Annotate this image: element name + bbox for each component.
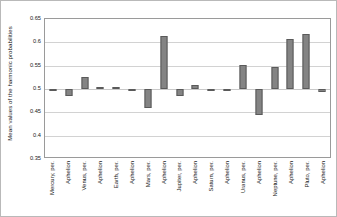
x-axis-tick-label: Neptune, per. [272, 161, 278, 196]
x-axis-tick-label: Earth, per. [113, 161, 119, 188]
bar-slot [92, 19, 108, 157]
x-axis-tick-label: Jupiter, per. [176, 161, 182, 191]
y-axis-tick: 0.65 [30, 15, 41, 21]
x-axis-tick-label: Aphelion [97, 161, 103, 184]
bar[interactable] [113, 87, 120, 89]
x-axis-tick: Aphelion [219, 159, 235, 217]
bar[interactable] [81, 77, 88, 89]
x-axis-tick: Uranus, per. [235, 159, 251, 217]
bar[interactable] [65, 89, 72, 96]
bar[interactable] [287, 39, 294, 89]
y-axis-tick: 0.6 [33, 38, 41, 44]
x-axis-tick-label: Pluto, per. [304, 161, 310, 188]
x-axis-tick: Neptune, per. [267, 159, 283, 217]
x-axis-tick: Pluto, per. [299, 159, 315, 217]
x-axis-tick: Earth, per. [108, 159, 124, 217]
x-axis-tick-label: Aphelion [320, 161, 326, 184]
bars-layer [45, 19, 330, 157]
x-axis-tick: Aphelion [187, 159, 203, 217]
bar-slot [298, 19, 314, 157]
x-axis-tick: Aphelion [156, 159, 172, 217]
bar-slot [219, 19, 235, 157]
x-axis-tick-label: Aphelion [256, 161, 262, 184]
x-axis-tick: Venus, per. [76, 159, 92, 217]
x-axis-tick-label: Aphelion [129, 161, 135, 184]
y-axis-title: Mean values of the harmonic probabilitie… [1, 1, 17, 166]
bar-slot [235, 19, 251, 157]
y-axis-tick: 0.45 [30, 108, 41, 114]
bar-slot [61, 19, 77, 157]
bar[interactable] [176, 89, 183, 96]
y-axis-tick: 0.35 [30, 155, 41, 161]
bar[interactable] [303, 34, 310, 89]
bar[interactable] [49, 89, 56, 91]
bar-slot [282, 19, 298, 157]
bar[interactable] [97, 87, 104, 89]
x-axis-tick-label: Mercury, per. [49, 161, 55, 195]
x-axis-tick-label: Aphelion [288, 161, 294, 184]
bar[interactable] [208, 89, 215, 91]
x-axis-tick: Aphelion [283, 159, 299, 217]
chart-frame: Mean values of the harmonic probabilitie… [0, 0, 337, 217]
y-axis-title-label: Mean values of the harmonic probabilitie… [6, 26, 13, 141]
bar-slot [203, 19, 219, 157]
x-axis-tick: Aphelion [251, 159, 267, 217]
bar-slot [251, 19, 267, 157]
bar-slot [77, 19, 93, 157]
x-axis-tick-label: Mars, per. [145, 161, 151, 187]
bar[interactable] [239, 65, 246, 89]
bar-slot [267, 19, 283, 157]
x-axis-tick-label: Saturn, per. [208, 161, 214, 191]
x-axis-tick: Aphelion [315, 159, 331, 217]
bar[interactable] [160, 36, 167, 89]
bar-slot [172, 19, 188, 157]
bar[interactable] [255, 89, 262, 115]
bar[interactable] [192, 85, 199, 89]
bar-slot [140, 19, 156, 157]
bar-slot [108, 19, 124, 157]
x-axis-tick-labels: Mercury, per.AphelionVenus, per.Aphelion… [44, 159, 331, 217]
x-axis-tick-label: Venus, per. [81, 161, 87, 190]
x-axis-tick: Jupiter, per. [172, 159, 188, 217]
bar[interactable] [318, 89, 325, 92]
bar[interactable] [271, 67, 278, 89]
y-axis-tick: 0.55 [30, 62, 41, 68]
x-axis-tick-label: Uranus, per. [240, 161, 246, 193]
y-axis-tick-labels: 0.650.60.550.50.450.40.35 [17, 1, 43, 166]
x-axis-tick: Mars, per. [140, 159, 156, 217]
y-axis-tick: 0.5 [33, 85, 41, 91]
bar-slot [124, 19, 140, 157]
x-axis-tick: Mercury, per. [44, 159, 60, 217]
bar-slot [314, 19, 330, 157]
y-axis-tick: 0.4 [33, 132, 41, 138]
bar-slot [45, 19, 61, 157]
bar-slot [156, 19, 172, 157]
x-axis-tick: Aphelion [124, 159, 140, 217]
plot-area [44, 18, 331, 158]
x-axis-tick-label: Aphelion [65, 161, 71, 184]
bar[interactable] [129, 89, 136, 91]
bar[interactable] [144, 89, 151, 108]
x-axis-tick-label: Aphelion [161, 161, 167, 184]
bar-slot [187, 19, 203, 157]
bar[interactable] [224, 89, 231, 91]
x-axis-tick-label: Aphelion [224, 161, 230, 184]
x-axis-tick: Aphelion [60, 159, 76, 217]
x-axis-tick: Aphelion [92, 159, 108, 217]
x-axis-tick: Saturn, per. [203, 159, 219, 217]
x-axis-tick-label: Aphelion [192, 161, 198, 184]
